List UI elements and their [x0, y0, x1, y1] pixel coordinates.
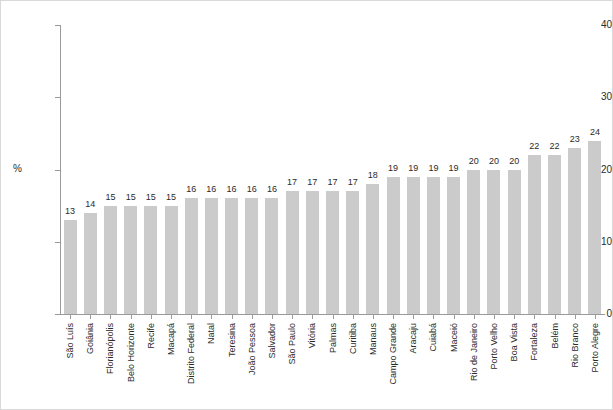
x-tick-label: Belo Horizonte — [126, 323, 135, 382]
x-tick-mark — [131, 314, 132, 319]
bar-slot: 19 — [444, 25, 464, 314]
bar-slot: 23 — [565, 25, 585, 314]
x-tick-label: Porto Alegre — [590, 323, 599, 373]
bar-value-label: 19 — [444, 164, 464, 173]
x-tick-label: São Paulo — [288, 323, 297, 365]
bar[interactable] — [265, 198, 278, 314]
bar-value-label: 17 — [322, 178, 342, 187]
bar[interactable] — [467, 170, 480, 315]
x-tick-mark — [70, 314, 71, 319]
bar-value-label: 17 — [282, 178, 302, 187]
bar[interactable] — [286, 191, 299, 314]
x-tick-mark — [514, 314, 515, 319]
plot-area: 1314151515151616161616171717171819191919… — [60, 25, 605, 314]
x-tick-label: Aracaju — [409, 323, 418, 354]
x-tick-label: Macapá — [167, 323, 176, 355]
bar[interactable] — [366, 184, 379, 314]
x-tick-mark — [292, 314, 293, 319]
bar-value-label: 17 — [343, 178, 363, 187]
bar[interactable] — [225, 198, 238, 314]
bar[interactable] — [387, 177, 400, 314]
bar[interactable] — [124, 206, 137, 314]
bar[interactable] — [487, 170, 500, 315]
x-tick-mark — [232, 314, 233, 319]
bar-value-label: 23 — [565, 135, 585, 144]
x-tick-label: Goiânia — [86, 323, 95, 354]
x-tick-mark — [110, 314, 111, 319]
bar-slot: 13 — [60, 25, 80, 314]
bar-slot: 15 — [100, 25, 120, 314]
bar[interactable] — [84, 213, 97, 314]
bar-value-label: 19 — [383, 164, 403, 173]
bar[interactable] — [528, 155, 541, 314]
bar[interactable] — [144, 206, 157, 314]
bar[interactable] — [326, 191, 339, 314]
bar-slot: 16 — [262, 25, 282, 314]
bar-slot: 22 — [524, 25, 544, 314]
x-tick-label: Natal — [207, 323, 216, 344]
bar[interactable] — [548, 155, 561, 314]
bar-value-label: 16 — [242, 185, 262, 194]
bar[interactable] — [588, 141, 601, 314]
bar-value-label: 15 — [100, 193, 120, 202]
bar[interactable] — [508, 170, 521, 315]
bar[interactable] — [245, 198, 258, 314]
x-tick-mark — [534, 314, 535, 319]
bar-slot: 19 — [383, 25, 403, 314]
x-tick-mark — [494, 314, 495, 319]
bar-slot: 15 — [161, 25, 181, 314]
bar-value-label: 18 — [363, 171, 383, 180]
bar-slot: 17 — [343, 25, 363, 314]
x-tick-label: Manaus — [368, 323, 377, 355]
bar-slot: 17 — [282, 25, 302, 314]
bar[interactable] — [104, 206, 117, 314]
x-tick-label: Rio de Janeiro — [469, 323, 478, 381]
bar-slot: 19 — [423, 25, 443, 314]
bar[interactable] — [306, 191, 319, 314]
bar-value-label: 20 — [504, 157, 524, 166]
bar[interactable] — [185, 198, 198, 314]
bar[interactable] — [64, 220, 77, 314]
bar-value-label: 16 — [181, 185, 201, 194]
x-tick-label: Belém — [550, 323, 559, 349]
bar-value-label: 15 — [141, 193, 161, 202]
bar[interactable] — [165, 206, 178, 314]
bar-value-label: 13 — [60, 207, 80, 216]
bar-chart-figure: % 010203040 São LuísGoiâniaFlorianópolis… — [0, 0, 613, 410]
x-tick-mark — [353, 314, 354, 319]
bar-value-label: 16 — [221, 185, 241, 194]
bar[interactable] — [427, 177, 440, 314]
x-tick-label: Recife — [146, 323, 155, 349]
bar-value-label: 17 — [302, 178, 322, 187]
bar-slot: 17 — [302, 25, 322, 314]
x-tick-mark — [433, 314, 434, 319]
bar-value-label: 19 — [423, 164, 443, 173]
x-tick-mark — [333, 314, 334, 319]
bar[interactable] — [205, 198, 218, 314]
bar-slot: 20 — [464, 25, 484, 314]
x-tick-label: Distrito Federal — [187, 323, 196, 384]
bar-value-label: 16 — [262, 185, 282, 194]
bar-slot: 19 — [403, 25, 423, 314]
x-tick-mark — [575, 314, 576, 319]
bar-value-label: 19 — [403, 164, 423, 173]
bar[interactable] — [346, 191, 359, 314]
x-tick-mark — [454, 314, 455, 319]
bar-slot: 15 — [121, 25, 141, 314]
bar-value-label: 14 — [80, 200, 100, 209]
bar[interactable] — [447, 177, 460, 314]
bar-slot: 16 — [181, 25, 201, 314]
x-tick-mark — [151, 314, 152, 319]
bar[interactable] — [407, 177, 420, 314]
x-tick-mark — [90, 314, 91, 319]
bar-value-label: 22 — [544, 142, 564, 151]
bar-slot: 16 — [221, 25, 241, 314]
bar[interactable] — [568, 148, 581, 314]
bar-slot: 20 — [504, 25, 524, 314]
x-tick-label: Teresina — [227, 323, 236, 357]
bar-slot: 14 — [80, 25, 100, 314]
bar-value-label: 20 — [484, 157, 504, 166]
x-tick-label: Porto Velho — [489, 323, 498, 370]
bar-value-label: 15 — [161, 193, 181, 202]
x-tick-mark — [474, 314, 475, 319]
